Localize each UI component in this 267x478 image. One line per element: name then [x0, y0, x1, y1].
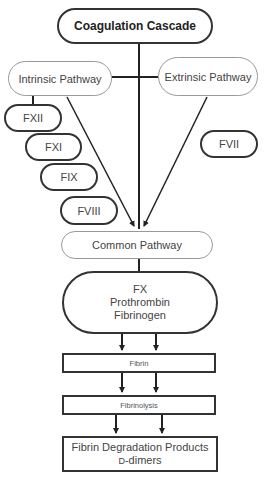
factor-fxii-node: FXII — [4, 104, 62, 132]
common-label: Common Pathway — [92, 239, 182, 251]
title-label: Coagulation Cascade — [74, 19, 196, 33]
products-label: Fibrin Degradation Products — [72, 441, 209, 454]
coagulation-cascade-node: Coagulation Cascade — [57, 8, 213, 44]
factor-fxi-node: FXI — [25, 133, 82, 161]
intrinsic-label: Intrinsic Pathway — [18, 73, 101, 85]
fibrin-degradation-products-node: Fibrin Degradation Products D-dimers — [62, 436, 218, 472]
fibrin-label: Fibrin — [130, 359, 149, 368]
common-pathway-node: Common Pathway — [61, 231, 213, 259]
fibrinolysis-label: Fibrinolysis — [120, 401, 158, 410]
extrinsic-pathway-node: Extrinsic Pathway — [158, 57, 258, 96]
extrinsic-label: Extrinsic Pathway — [165, 71, 252, 83]
factor-fvii-node: FVII — [200, 130, 258, 158]
fibrinolysis-node: Fibrinolysis — [62, 395, 216, 415]
d-dimers-label: D-dimers — [118, 454, 161, 468]
factor-fix-node: FIX — [40, 163, 98, 191]
factor-label: FXII — [23, 112, 43, 124]
factor-label: FX — [133, 283, 147, 296]
factor-fviii-node: FVIII — [60, 196, 118, 225]
factor-label: FVIII — [77, 205, 100, 217]
fibrin-node: Fibrin — [62, 353, 216, 373]
factor-label: FXI — [45, 141, 62, 153]
factor-label: Fibrinogen — [114, 309, 166, 322]
common-factors-node: FX Prothrombin Fibrinogen — [62, 271, 218, 334]
factor-label: Prothrombin — [110, 296, 170, 309]
factor-label: FVII — [219, 138, 239, 150]
intrinsic-pathway-node: Intrinsic Pathway — [8, 61, 112, 96]
dimers-suffix: -dimers — [125, 454, 162, 466]
factor-label: FIX — [60, 171, 77, 183]
